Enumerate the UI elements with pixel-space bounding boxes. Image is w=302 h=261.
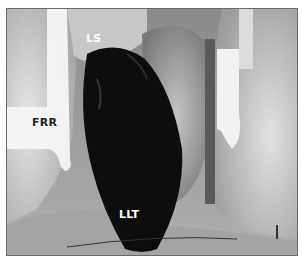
photo-frame: LS FRR LLT — [6, 8, 298, 256]
label-ls: LS — [86, 32, 101, 45]
label-frr: FRR — [32, 116, 57, 129]
surgical-photo — [7, 9, 297, 255]
label-llt: LLT — [119, 208, 139, 221]
